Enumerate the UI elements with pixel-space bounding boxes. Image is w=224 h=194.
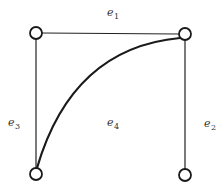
edge-e1 (42, 33, 179, 34)
svg-text:3: 3 (15, 122, 20, 131)
label-e3: e 3 (8, 116, 20, 131)
node-bottom-right (179, 169, 191, 181)
label-e2: e 2 (204, 117, 216, 132)
label-e4: e 4 (107, 116, 119, 131)
graph-diagram: e 1 e 3 e 4 e 2 (0, 0, 224, 194)
svg-text:e: e (107, 116, 114, 129)
svg-text:e: e (8, 116, 15, 129)
node-top-left (30, 27, 42, 39)
svg-text:e: e (204, 117, 211, 130)
node-top-right (179, 28, 191, 40)
label-e1: e 1 (107, 6, 119, 21)
svg-text:1: 1 (114, 12, 119, 21)
svg-text:e: e (107, 6, 114, 19)
node-bottom-left (30, 168, 42, 180)
edge-e4-curve (37, 38, 180, 168)
svg-text:4: 4 (114, 122, 119, 131)
svg-text:2: 2 (211, 123, 216, 132)
